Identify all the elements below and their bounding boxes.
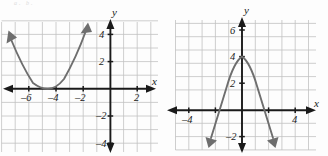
left-y-tick-2: 2 <box>99 56 105 67</box>
right-y-tick-2: 2 <box>230 78 236 89</box>
x-axis-left-arrowhead <box>3 85 13 93</box>
left-grid-lines <box>2 21 158 152</box>
left-x-axis-label: x <box>151 75 157 87</box>
figure-page: a. b. <box>0 0 328 156</box>
left-x-tick-2: 2 <box>134 92 140 103</box>
right-y-axis-label: y <box>243 4 249 16</box>
graph-right-parabola: y x –4 4 6 4 2 –2 <box>164 0 328 156</box>
right-parabola-svg: y x –4 4 6 4 2 –2 <box>164 0 328 156</box>
left-x-tick-labels: –6 –4 –2 2 <box>20 92 140 103</box>
left-y-axis-label: y <box>111 6 117 18</box>
x-axis-left-arrowhead <box>167 106 177 114</box>
right-axis-name-labels: y x <box>243 4 319 109</box>
left-y-tick--4: –4 <box>95 138 107 149</box>
y-axis-down-arrowhead <box>238 143 246 153</box>
left-x-tick--6: –6 <box>20 92 32 103</box>
right-y-tick-4: 4 <box>230 51 236 62</box>
right-y-axis <box>238 17 246 153</box>
right-x-tick-4: 4 <box>292 114 298 125</box>
left-parabola-curve <box>12 32 86 89</box>
left-x-tick--2: –2 <box>74 92 86 103</box>
left-y-tick-4: 4 <box>99 29 105 40</box>
right-grid-lines <box>176 20 317 150</box>
left-x-tick--4: –4 <box>47 92 59 103</box>
graph-left-parabola: y x –6 –4 –2 2 4 2 –2 –4 <box>0 0 164 156</box>
left-curve-right-arrowhead <box>81 23 93 34</box>
right-x-axis-label: x <box>313 97 319 109</box>
left-y-tick--2: –2 <box>95 110 107 121</box>
right-y-tick--2: –2 <box>225 131 237 142</box>
right-y-tick-6: 6 <box>230 25 236 36</box>
left-parabola-svg: y x –6 –4 –2 2 4 2 –2 –4 <box>0 0 164 156</box>
left-y-axis <box>106 19 114 153</box>
y-axis-up-arrowhead <box>238 17 246 27</box>
right-x-tick--4: –4 <box>181 114 193 125</box>
y-axis-down-arrowhead <box>106 143 114 153</box>
